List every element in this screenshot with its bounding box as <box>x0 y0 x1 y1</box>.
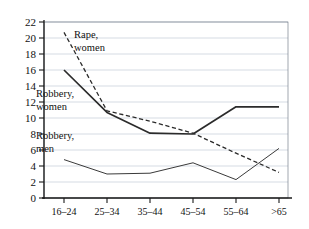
annotation-robbery-women-line2: women <box>36 101 68 112</box>
annotation-rape-women-line1: Rape, <box>74 29 98 40</box>
y-tick-label: 14 <box>25 80 37 92</box>
annotation-robbery-women-line1: Robbery, <box>36 88 74 99</box>
annotation-robbery-men-line1: Robbery, <box>36 130 74 141</box>
y-tick-label: 4 <box>31 160 37 172</box>
x-tick-label: 25–34 <box>95 206 120 217</box>
chart-background <box>0 0 309 229</box>
chart-canvas: 22 20 18 16 14 12 10 8 6 4 2 0 16–24 25–… <box>0 0 309 229</box>
x-tick-label: 35–44 <box>138 206 163 217</box>
x-tick-label: >65 <box>271 206 287 217</box>
y-tick-label: 18 <box>25 48 37 60</box>
annotation-robbery-men-line2: men <box>36 143 55 154</box>
x-tick-label: 55–64 <box>224 206 249 217</box>
y-tick-label: 16 <box>25 64 37 76</box>
y-tick-label: 22 <box>25 16 36 28</box>
x-tick-label: 45–54 <box>181 206 206 217</box>
annotation-rape-women-line2: women <box>74 42 106 53</box>
y-tick-label: 0 <box>31 192 37 204</box>
line-chart: 22 20 18 16 14 12 10 8 6 4 2 0 16–24 25–… <box>0 0 309 229</box>
y-tick-label: 2 <box>31 176 37 188</box>
x-tick-label: 16–24 <box>52 206 77 217</box>
y-tick-label: 10 <box>25 112 37 124</box>
y-tick-label: 20 <box>25 32 37 44</box>
y-tick-label: 12 <box>25 96 36 108</box>
